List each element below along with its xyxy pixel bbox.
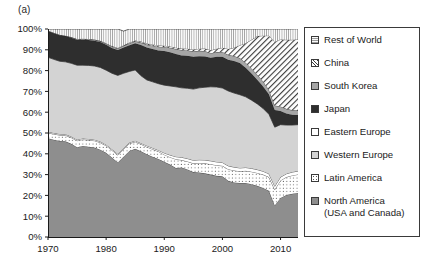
legend-swatch-north-america-icon [311, 197, 319, 205]
legend-item-south-korea[interactable]: South Korea [311, 80, 419, 103]
legend-swatch-eastern-europe-icon [311, 128, 319, 136]
legend-item-north-america[interactable]: North America (USA and Canada) [311, 195, 419, 229]
y-tick-label: 70% [23, 86, 43, 97]
y-tick-label: 30% [23, 169, 43, 180]
x-tick-label: 1980 [95, 243, 116, 254]
legend-item-china[interactable]: China [311, 57, 419, 80]
legend-item-latin-america[interactable]: Latin America [311, 172, 419, 195]
y-tick-label: 90% [23, 44, 43, 55]
y-tick-label: 20% [23, 190, 43, 201]
y-tick-label: 60% [23, 107, 43, 118]
y-tick-label: 10% [23, 211, 43, 222]
legend-item-japan[interactable]: Japan [311, 103, 419, 126]
y-tick-label: 50% [23, 127, 43, 138]
legend-swatch-western-europe-icon [311, 151, 319, 159]
legend-label-south-korea: South Korea [324, 80, 377, 92]
y-tick-label: 100% [17, 23, 42, 34]
legend-label-latin-america: Latin America [324, 172, 382, 184]
legend-item-western-europe[interactable]: Western Europe [311, 149, 419, 172]
y-tick-label: 40% [23, 148, 43, 159]
y-tick-label: 0% [28, 231, 42, 242]
x-tick-label: 1970 [37, 243, 58, 254]
legend-swatch-south-korea-icon [311, 82, 319, 90]
x-tick-label: 2010 [270, 243, 291, 254]
legend-label-japan: Japan [324, 103, 350, 115]
legend-item-eastern-europe[interactable]: Eastern Europe [311, 126, 419, 149]
legend-label-rest-of-world: Rest of World [324, 34, 382, 46]
x-tick-label: 2000 [212, 243, 233, 254]
legend-swatch-latin-america-icon [311, 174, 319, 182]
chart-legend: Rest of World China South Korea Japan Ea… [304, 27, 420, 237]
x-axis-ticks: 19701980199020002010 [37, 237, 291, 254]
legend-swatch-rest-of-world-icon [311, 36, 319, 44]
series-group [48, 29, 298, 237]
legend-swatch-japan-icon [311, 105, 319, 113]
x-tick-label: 1990 [154, 243, 175, 254]
figure-panel: (a) [0, 0, 427, 273]
legend-label-western-europe: Western Europe [324, 149, 393, 161]
y-tick-label: 80% [23, 65, 43, 76]
legend-label-north-america: North America (USA and Canada) [324, 195, 405, 218]
legend-swatch-china-icon [311, 59, 319, 67]
legend-label-china: China [324, 57, 349, 69]
y-axis-ticks: 0%10%20%30%40%50%60%70%80%90%100% [17, 23, 48, 242]
legend-label-eastern-europe: Eastern Europe [324, 126, 391, 138]
legend-item-rest-of-world[interactable]: Rest of World [311, 34, 419, 57]
